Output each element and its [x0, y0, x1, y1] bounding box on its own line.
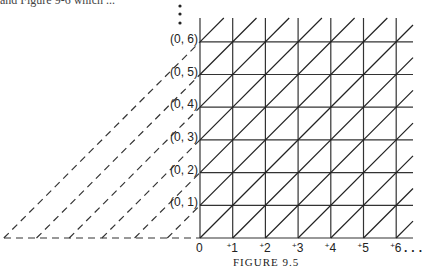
y-continuation-dot: [178, 12, 181, 15]
x-axis-label: +1: [227, 241, 238, 255]
y-axis-label: (0, 3): [154, 130, 198, 144]
x-axis-label: +6: [390, 241, 401, 255]
x-axis-continuation: ...: [404, 241, 426, 255]
y-continuation-dot: [178, 21, 181, 24]
grid-diagonal-line: [331, 156, 413, 238]
grid-diagonal-line: [200, 18, 322, 140]
grid-diagonal-line: [200, 18, 355, 173]
y-continuation-dot: [178, 4, 181, 7]
y-axis-label: (0, 6): [154, 32, 198, 46]
y-axis-label: (0, 1): [154, 195, 198, 209]
dashed-diagonal-line: [167, 205, 200, 238]
grid-diagonal-line: [200, 18, 257, 75]
grid-diagonal-line: [265, 90, 413, 238]
grid-diagonal-line: [200, 25, 413, 238]
grid-diagonal-line: [233, 58, 413, 238]
y-axis-label: (0, 5): [154, 65, 198, 79]
x-axis-label: +2: [259, 241, 270, 255]
dashed-diagonal-line: [102, 140, 200, 238]
x-axis-label: +3: [292, 241, 303, 255]
y-axis-label: (0, 4): [154, 97, 198, 111]
x-axis-label: +5: [358, 241, 369, 255]
figure-caption: FIGURE 9.5: [233, 256, 299, 268]
grid-diagonal-line: [200, 18, 224, 42]
x-axis-origin-label: 0: [196, 241, 203, 255]
y-axis-label: (0, 2): [154, 163, 198, 177]
grid-diagonal-line: [200, 18, 289, 107]
x-axis-label: +4: [325, 241, 336, 255]
grid-diagonal-line: [396, 221, 413, 238]
grid-diagonal-line: [364, 189, 414, 239]
